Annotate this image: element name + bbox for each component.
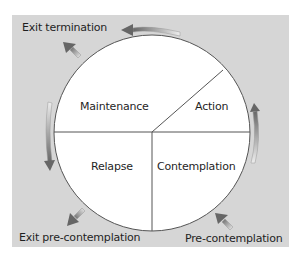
- arrow-up-left-icon: [215, 213, 233, 230]
- label-exit-termination: Exit termination: [22, 21, 107, 34]
- label-exit-precontemplation: Exit pre-contemplation: [19, 231, 140, 244]
- stage-cycle-diagram: [0, 0, 300, 259]
- arrow-down-left-icon: [67, 208, 85, 226]
- segment-label-relapse: Relapse: [91, 160, 133, 173]
- segment-label-contemplation: Contemplation: [157, 160, 235, 173]
- arrow-left-icon: [121, 24, 180, 36]
- arrow-up-left-icon: [63, 42, 81, 58]
- label-precontemplation: Pre-contemplation: [185, 232, 282, 245]
- segment-label-maintenance: Maintenance: [80, 100, 149, 113]
- arrow-down-icon: [44, 102, 55, 171]
- arrow-up-icon: [250, 103, 260, 163]
- segment-label-action: Action: [195, 100, 228, 113]
